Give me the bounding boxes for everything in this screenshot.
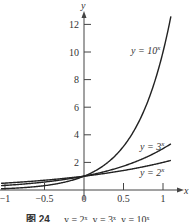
figure-caption: 图 24y = 2ˣ, y = 3ˣ, y = 10ˣ <box>26 211 150 222</box>
y-tick-label: 12 <box>69 19 79 30</box>
x-tick-label: 0 <box>82 193 87 204</box>
curve-label-2x: y = 2x <box>139 166 165 178</box>
caption-text: y = 2ˣ, y = 3ˣ, y = 10ˣ <box>64 214 150 222</box>
y-tick-label: 8 <box>74 74 79 85</box>
x-tick-label: −0.5 <box>35 193 53 204</box>
x-tick-label: −1 <box>0 193 10 204</box>
figure-number: 图 24 <box>26 214 50 222</box>
y-tick-label: 6 <box>74 102 79 113</box>
y-axis-label: y <box>80 0 86 11</box>
y-tick-label: 10 <box>69 47 79 58</box>
exponential-chart: x y −1−0.500.5124681012 y = 2xy = 3xy = … <box>0 0 190 222</box>
y-axis-arrow-icon <box>82 11 87 18</box>
y-tick-label: 2 <box>74 157 79 168</box>
x-axis-arrow-icon <box>177 188 184 193</box>
x-tick-label: 0.5 <box>117 193 130 204</box>
y-tick-label: 4 <box>74 129 79 140</box>
x-tick-label: 1 <box>161 193 166 204</box>
curve-label-10x: y = 10x <box>130 44 161 56</box>
x-axis-label: x <box>183 185 189 196</box>
